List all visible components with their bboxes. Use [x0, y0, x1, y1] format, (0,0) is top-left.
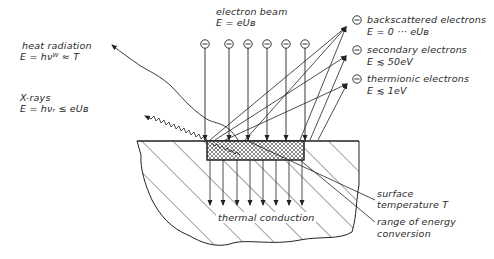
- electron-beam-label: electron beam: [216, 6, 288, 17]
- x-rays-label: X-rays: [20, 92, 51, 103]
- thermionic-electrons-formula: E ≲ 1eV: [367, 85, 407, 96]
- backscattered-electrons-label: backscattered electrons: [367, 14, 486, 25]
- emitted-electron-symbols: [353, 16, 361, 83]
- secondary-electrons-formula: E ≲ 50eV: [367, 56, 413, 67]
- x-rays-formula: E = hνᵣ ≤ eUʙ: [20, 103, 89, 114]
- heat-radiation-formula: E = hνᵂ ≈ T: [20, 51, 79, 62]
- thermal-conduction-label: thermal conduction: [216, 212, 316, 223]
- surface-temperature-label-2: temperature T: [377, 199, 448, 210]
- range-energy-label-2: conversion: [377, 228, 431, 239]
- x-ray-wave: [145, 116, 207, 140]
- surface-temperature-label: surface: [377, 188, 414, 199]
- thermionic-electrons-label: thermionic electrons: [367, 73, 469, 84]
- heat-radiation-label: heat radiation: [22, 40, 92, 51]
- electron-beam-formula: E = eUʙ: [216, 17, 256, 28]
- backscattered-electrons-formula: E = 0 ··· eUʙ: [367, 26, 429, 37]
- range-energy-label: range of energy: [377, 216, 456, 227]
- secondary-electrons-label: secondary electrons: [367, 44, 467, 55]
